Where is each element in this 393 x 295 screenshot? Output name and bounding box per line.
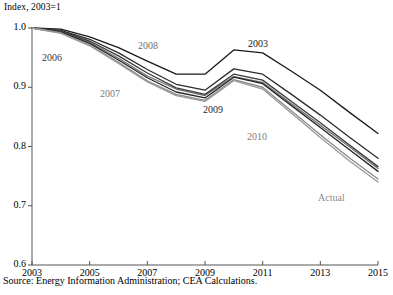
y-tick-label: 1.0 [2,21,26,32]
y-tick-label: 0.9 [2,80,26,91]
series-annotation-2010: 2010 [247,131,267,142]
series-annotation-2006: 2006 [42,52,62,63]
series-annotation-2008: 2008 [138,40,158,51]
x-tick-label: 2015 [358,267,393,278]
source-note: Source: Energy Information Administratio… [3,275,257,286]
series-annotation-2007: 2007 [100,88,120,99]
series-annotation-actual: Actual [318,192,345,203]
y-tick-label: 0.8 [2,140,26,151]
series-annotation-2003: 2003 [248,38,268,49]
y-tick-label: 0.7 [2,199,26,210]
x-tick-label: 2013 [300,267,340,278]
series-annotation-2009: 2009 [203,104,223,115]
